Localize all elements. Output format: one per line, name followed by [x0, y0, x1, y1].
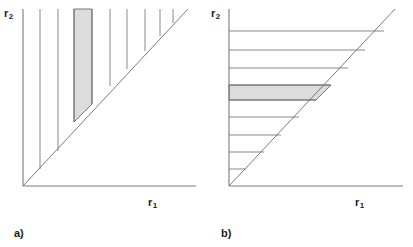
x-axis-label-a-subscript: 1 [152, 201, 157, 210]
shaded-strip-a-shape [74, 9, 92, 122]
shaded-strip-b [229, 85, 331, 100]
panel-b: r2 r1 b) [207, 0, 413, 247]
y-axis-label-a: r2 [4, 8, 13, 21]
x-axis-label-b-subscript: 1 [359, 201, 364, 210]
panel-a-caption: a) [14, 228, 24, 239]
panel-b-plot [207, 0, 413, 247]
panel-b-caption: b) [221, 228, 231, 239]
y-axis-label-a-subscript: 2 [8, 12, 13, 21]
panel-a-plot [0, 0, 206, 247]
figure-root: r2 r1 a) [0, 0, 413, 247]
shaded-strip-a [74, 9, 92, 122]
y-axis-label-b: r2 [211, 8, 220, 21]
x-axis-label-a: r1 [148, 197, 157, 210]
x-axis-label-b: r1 [355, 197, 364, 210]
horizontal-strip-lines-b [229, 31, 384, 169]
panel-a: r2 r1 a) [0, 0, 206, 247]
vertical-strip-lines-a [40, 9, 173, 169]
diagonal-boundary-a [23, 9, 188, 186]
shaded-strip-b-shape [229, 85, 331, 100]
y-axis-label-b-subscript: 2 [215, 12, 220, 21]
